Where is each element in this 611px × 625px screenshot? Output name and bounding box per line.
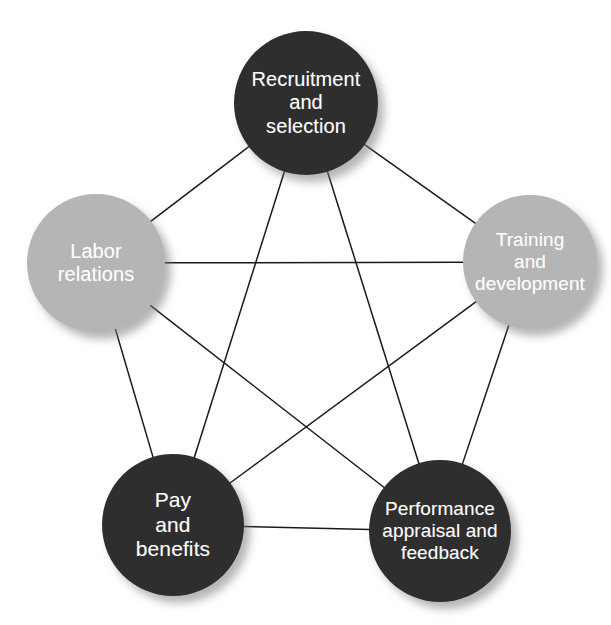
node-label-line: Training (475, 229, 585, 251)
node-label-line: feedback (382, 542, 497, 564)
hrm-functions-diagram: RecruitmentandselectionTraininganddevelo… (0, 0, 611, 625)
edge-training-and-development-to-performance-appraisal-and-feedback (462, 325, 509, 465)
edge-recruitment-and-selection-to-performance-appraisal-and-feedback (327, 171, 419, 464)
node-label-line: selection (252, 115, 361, 138)
node-label-line: Recruitment (252, 68, 361, 91)
node-label-line: benefits (136, 537, 210, 561)
node-label-line: appraisal and (382, 520, 497, 542)
node-recruitment-and-selection[interactable]: Recruitmentandselection (234, 31, 378, 175)
node-pay-and-benefits[interactable]: Payandbenefits (102, 454, 244, 596)
node-label-line: relations (58, 263, 135, 286)
node-label-line: and (252, 91, 361, 114)
node-training-and-development[interactable]: Traininganddevelopment (463, 195, 597, 329)
edge-performance-appraisal-and-feedback-to-pay-and-benefits (243, 527, 370, 530)
node-label-line: development (475, 273, 585, 295)
node-label-performance-appraisal-and-feedback: Performanceappraisal andfeedback (376, 498, 503, 564)
edge-pay-and-benefits-to-labor-relations (115, 328, 153, 458)
node-label-line: and (475, 251, 585, 273)
node-label-training-and-development: Traininganddevelopment (469, 229, 591, 295)
edge-training-and-development-to-pay-and-benefits (229, 301, 477, 483)
node-performance-appraisal-and-feedback[interactable]: Performanceappraisal andfeedback (369, 460, 511, 602)
edge-recruitment-and-selection-to-pay-and-benefits (194, 171, 285, 459)
edge-labor-relations-to-recruitment-and-selection (150, 146, 249, 222)
edge-training-and-development-to-labor-relations (164, 262, 464, 263)
node-label-line: Pay (136, 488, 210, 512)
node-label-line: Performance (382, 498, 497, 520)
node-labor-relations[interactable]: Laborrelations (27, 194, 165, 332)
node-label-labor-relations: Laborrelations (52, 240, 141, 286)
node-label-pay-and-benefits: Payandbenefits (130, 488, 216, 561)
node-label-line: Labor (58, 240, 135, 263)
node-label-line: and (136, 513, 210, 537)
node-label-recruitment-and-selection: Recruitmentandselection (246, 68, 367, 138)
edge-recruitment-and-selection-to-training-and-development (364, 144, 476, 224)
